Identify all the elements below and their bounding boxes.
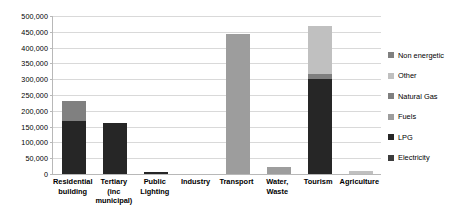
bar-segment[interactable] — [267, 167, 291, 174]
legend-swatch-icon — [388, 155, 394, 161]
bar-stack[interactable] — [349, 171, 373, 174]
y-axis-tick-label: 400,000 — [21, 43, 48, 52]
legend-swatch-icon — [388, 134, 394, 140]
bar-segment[interactable] — [308, 26, 332, 75]
legend-label: Natural Gas — [398, 92, 437, 101]
legend-item[interactable]: LPG — [388, 127, 473, 148]
y-axis-tick-label: 350,000 — [21, 59, 48, 68]
bar-slot[interactable] — [299, 16, 340, 174]
bar-segment[interactable] — [226, 34, 250, 174]
x-axis-category-label: Residential building — [52, 177, 93, 206]
legend-swatch-icon — [388, 52, 394, 58]
bar-segment[interactable] — [62, 121, 86, 174]
bar-slot[interactable] — [340, 16, 381, 174]
bar-segment[interactable] — [103, 123, 127, 174]
bar-slot[interactable] — [94, 16, 135, 174]
x-axis-category-label: Tertiary (inc municipal) — [93, 177, 134, 206]
y-axis-tick-label: 0 — [44, 170, 48, 179]
legend-label: Non energetic — [398, 51, 444, 60]
plot-wrapper: 050,000100,000150,000200,000250,000300,0… — [0, 0, 388, 215]
energy-consumption-bar-chart: 050,000100,000150,000200,000250,000300,0… — [0, 0, 473, 215]
y-axis-tick-label: 450,000 — [21, 27, 48, 36]
bar-segment[interactable] — [349, 171, 373, 174]
y-axis-tick-labels: 050,000100,000150,000200,000250,000300,0… — [4, 16, 48, 174]
y-axis-tick-label: 200,000 — [21, 106, 48, 115]
bar-stack[interactable] — [103, 123, 127, 174]
legend-item[interactable]: Other — [388, 66, 473, 87]
x-axis-category-label: Agriculture — [339, 177, 380, 206]
chart-legend: Non energeticOtherNatural GasFuelsLPGEle… — [388, 45, 473, 168]
bar-slot[interactable] — [258, 16, 299, 174]
x-axis-category-label: Industry — [175, 177, 216, 206]
bar-series-container — [53, 16, 381, 174]
legend-label: Other — [398, 71, 416, 80]
bar-segment[interactable] — [62, 101, 86, 121]
x-axis-category-labels: Residential buildingTertiary (inc munici… — [52, 177, 380, 206]
bar-segment[interactable] — [144, 172, 168, 174]
legend-item[interactable]: Natural Gas — [388, 86, 473, 107]
legend-label: Fuels — [398, 112, 416, 121]
legend-swatch-icon — [388, 93, 394, 99]
legend-swatch-icon — [388, 114, 394, 120]
legend-item[interactable]: Electricity — [388, 148, 473, 169]
legend-item[interactable]: Fuels — [388, 107, 473, 128]
y-axis-tick-label: 500,000 — [21, 12, 48, 21]
bar-slot[interactable] — [53, 16, 94, 174]
bar-stack[interactable] — [144, 172, 168, 174]
bar-stack[interactable] — [62, 101, 86, 174]
bar-slot[interactable] — [176, 16, 217, 174]
bar-slot[interactable] — [135, 16, 176, 174]
legend-label: Electricity — [398, 153, 430, 162]
bar-stack[interactable] — [308, 26, 332, 175]
bar-slot[interactable] — [217, 16, 258, 174]
y-axis-tickmark — [50, 174, 53, 175]
y-axis-tick-label: 100,000 — [21, 138, 48, 147]
y-axis-tick-label: 50,000 — [25, 154, 48, 163]
y-axis-tick-label: 250,000 — [21, 91, 48, 100]
x-axis-category-label: Public Lighting — [134, 177, 175, 206]
bar-stack[interactable] — [267, 167, 291, 174]
x-axis-category-label: Water, Waste — [257, 177, 298, 206]
legend-swatch-icon — [388, 73, 394, 79]
plot-area — [52, 16, 381, 175]
legend-label: LPG — [398, 133, 413, 142]
x-axis-category-label: Tourism — [298, 177, 339, 206]
legend-item[interactable]: Non energetic — [388, 45, 473, 66]
bar-stack[interactable] — [226, 34, 250, 174]
x-axis-category-label: Transport — [216, 177, 257, 206]
y-axis-tick-label: 150,000 — [21, 122, 48, 131]
y-axis-tick-label: 300,000 — [21, 75, 48, 84]
bar-segment[interactable] — [308, 79, 332, 174]
